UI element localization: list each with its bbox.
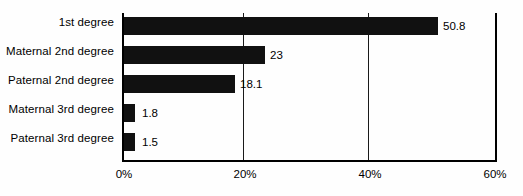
bar <box>124 133 135 151</box>
gridline-60 <box>495 13 497 162</box>
bar <box>124 75 235 93</box>
bar <box>124 104 135 122</box>
x-tick-label: 0% <box>116 168 133 180</box>
x-tick-label: 40% <box>358 168 381 180</box>
bar-value-label: 18.1 <box>240 75 262 93</box>
bar-value-label: 1.8 <box>142 104 158 122</box>
bar-chart: 1st degree Maternal 2nd degree Paternal … <box>0 0 523 196</box>
category-label: Paternal 3rd degree <box>10 129 114 147</box>
gridline-40 <box>368 13 369 162</box>
bar-value-label: 23 <box>270 46 283 64</box>
category-label: 1st degree <box>59 13 114 31</box>
x-tick-label: 20% <box>233 168 256 180</box>
category-label: Paternal 2nd degree <box>8 71 114 89</box>
bar-value-label: 50.8 <box>443 17 465 35</box>
bar <box>124 46 265 64</box>
x-tick-label: 60% <box>483 168 506 180</box>
bar <box>124 17 438 35</box>
category-label: Maternal 2nd degree <box>6 42 114 60</box>
bar-value-label: 1.5 <box>142 133 158 151</box>
category-axis-labels: 1st degree Maternal 2nd degree Paternal … <box>0 13 114 162</box>
x-axis-line <box>122 160 497 162</box>
plot-area: 50.8 23 18.1 1.8 1.5 <box>122 13 495 162</box>
category-label: Maternal 3rd degree <box>9 100 114 118</box>
